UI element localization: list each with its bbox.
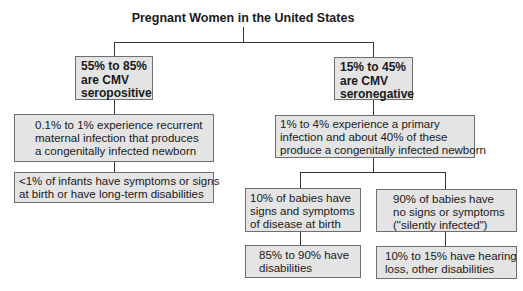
connector — [373, 42, 374, 57]
connector — [300, 172, 301, 188]
node-recurrent-infection: 0.1% to 1% experience recurrent maternal… — [14, 114, 214, 162]
connector — [114, 42, 115, 56]
connector — [445, 231, 446, 246]
node-recurrent-outcome: <1% of infants have symptoms or signs at… — [14, 172, 214, 203]
connector — [114, 42, 374, 43]
node-seropositive: 55% to 85% are CMV seropositive — [75, 56, 153, 100]
node-primary-infection: 1% to 4% experience a primary infection … — [275, 115, 475, 158]
connector — [114, 100, 115, 114]
connector — [445, 172, 446, 189]
connector — [300, 231, 301, 245]
connector — [373, 157, 374, 172]
node-asymptomatic: 90% of babies have no signs or symptoms … — [376, 189, 517, 232]
connector — [300, 172, 446, 173]
node-seronegative: 15% to 45% are CMV seronegative — [334, 57, 413, 100]
connector — [114, 162, 115, 172]
node-symptomatic: 10% of babies have signs and symptoms of… — [245, 188, 361, 232]
node-symptomatic-outcome: 85% to 90% have disabilities — [245, 245, 361, 278]
node-asymptomatic-outcome: 10% to 15% have hearing loss, other disa… — [376, 246, 517, 279]
connector — [243, 27, 244, 42]
diagram-title: Pregnant Women in the United States — [0, 11, 486, 25]
